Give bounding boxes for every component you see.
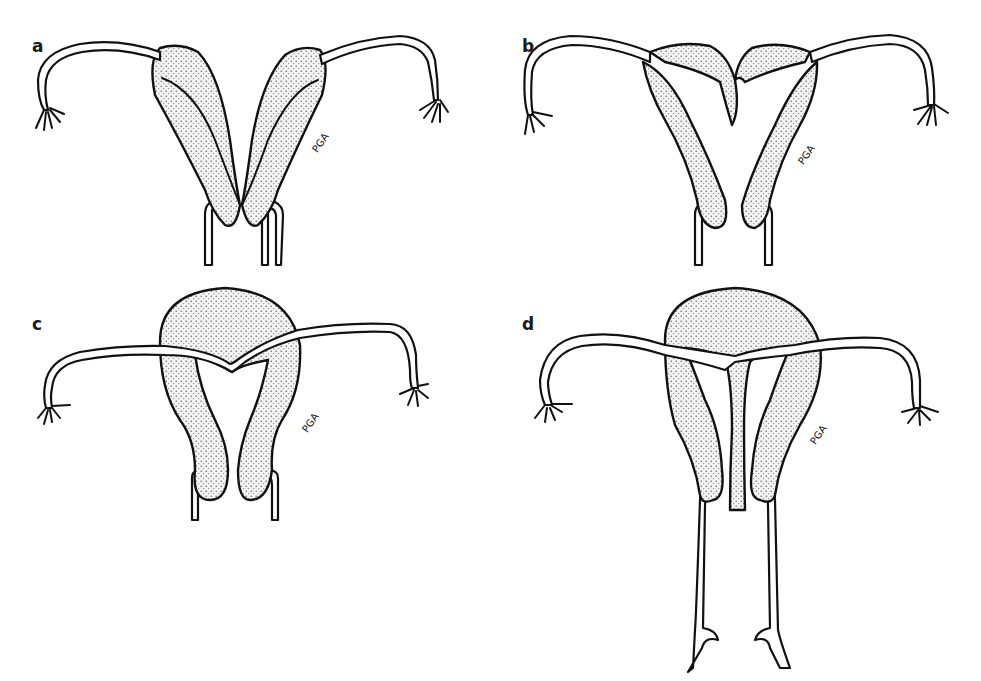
panel-label-a: a	[32, 36, 43, 56]
figure-canvas	[0, 0, 981, 681]
panel-label-b: b	[522, 36, 534, 56]
panel-label-d: d	[522, 314, 534, 334]
panel-c-drawing	[38, 288, 428, 520]
panel-label-c: c	[32, 314, 42, 334]
panel-b-drawing	[524, 35, 948, 265]
panel-a-drawing	[36, 36, 448, 265]
panel-d-drawing	[535, 288, 938, 672]
